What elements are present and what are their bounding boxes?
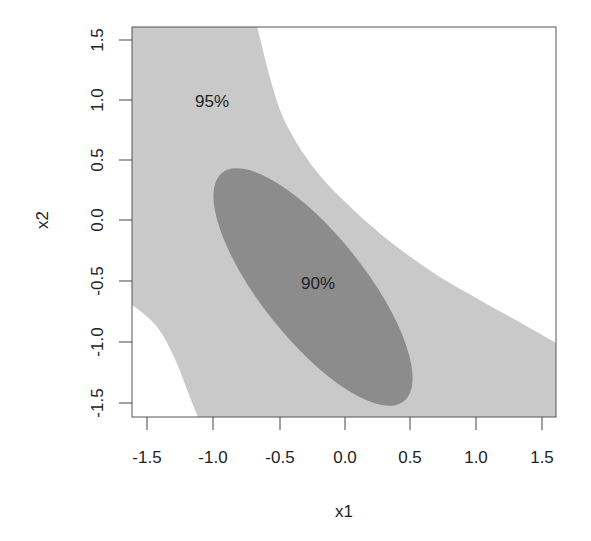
x-tick-label: 0.0 — [333, 448, 357, 467]
y-tick-label: -0.5 — [88, 266, 107, 295]
y-axis — [119, 40, 132, 403]
region-95-label: 95% — [195, 92, 229, 111]
x-tick-label: -0.5 — [265, 448, 294, 467]
x-tick-label: 0.5 — [398, 448, 422, 467]
plot-area — [132, 27, 556, 434]
x-tick-label: 1.0 — [464, 448, 488, 467]
y-axis-title: x2 — [33, 211, 52, 229]
x-axis-title: x1 — [335, 502, 353, 521]
x-axis — [147, 417, 542, 430]
y-tick-label: 1.5 — [88, 28, 107, 52]
y-tick-label: -1.0 — [88, 327, 107, 356]
y-tick-label: 1.0 — [88, 88, 107, 112]
confidence-region-plot: 95% 90% -1.5 -1.0 -0.5 0.0 0.5 1.0 1.5 -… — [0, 0, 591, 541]
y-tick-label: -1.5 — [88, 388, 107, 417]
y-tick-label: 0.0 — [88, 208, 107, 232]
x-tick-label: -1.0 — [198, 448, 227, 467]
x-tick-labels: -1.5 -1.0 -0.5 0.0 0.5 1.0 1.5 — [132, 448, 553, 467]
y-tick-label: 0.5 — [88, 148, 107, 172]
y-tick-labels: -1.5 -1.0 -0.5 0.0 0.5 1.0 1.5 — [88, 28, 107, 417]
region-90-label: 90% — [301, 274, 335, 293]
x-tick-label: -1.5 — [132, 448, 161, 467]
x-tick-label: 1.5 — [530, 448, 554, 467]
